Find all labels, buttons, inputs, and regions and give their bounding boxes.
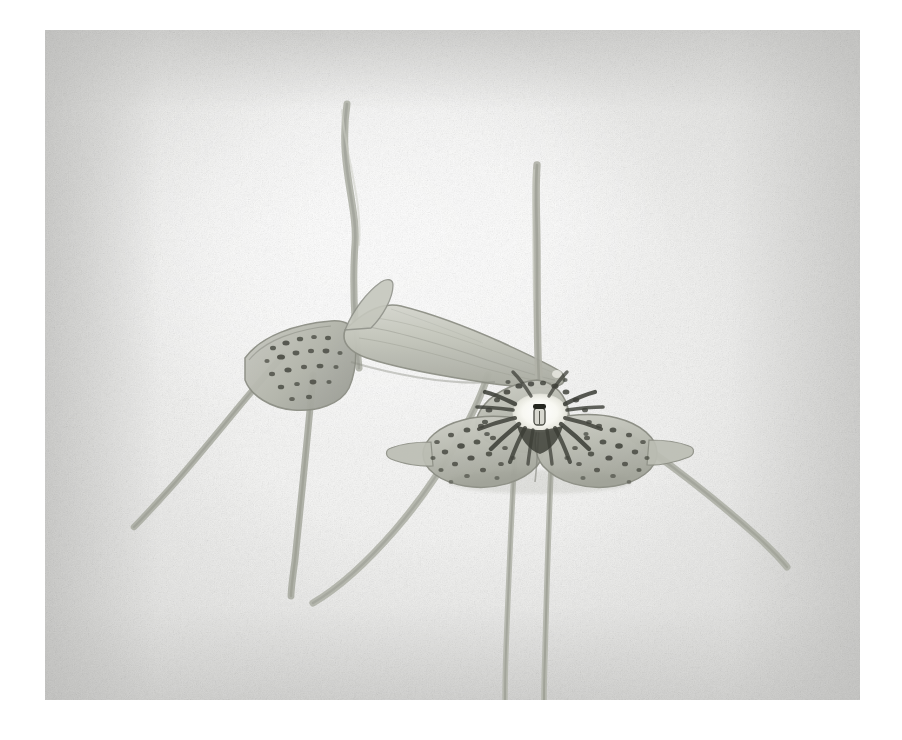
left-flower-sepal-tube bbox=[344, 280, 564, 388]
left-flower-sweeping-tail bbox=[313, 375, 488, 603]
right-flower-cast-shadow bbox=[448, 470, 632, 494]
artwork-medium: Watercolor and graphite on textured pape… bbox=[0, 0, 1, 1]
artwork-title: Two Masdevallia Orchid Flowers bbox=[0, 0, 1, 1]
orchid-drawing bbox=[45, 30, 860, 700]
orchid-column bbox=[533, 404, 546, 425]
right-orchid-flower bbox=[387, 165, 788, 700]
artwork-canvas: Two Masdevallia Orchid Flowers Watercolo… bbox=[0, 0, 902, 740]
left-orchid-flower bbox=[134, 104, 564, 603]
paper-plate bbox=[45, 30, 860, 700]
left-flower-lateral-sepal bbox=[245, 321, 356, 410]
right-flower-dorsal-tail bbox=[533, 165, 539, 382]
